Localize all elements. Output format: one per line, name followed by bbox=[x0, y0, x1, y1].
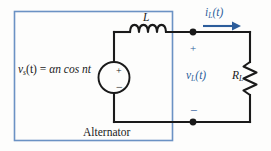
load-resistor-symbol: R bbox=[232, 69, 239, 81]
current-label: iL(t) bbox=[205, 7, 223, 20]
load-resistor-subscript: L bbox=[239, 74, 243, 83]
node-top-junction-dot bbox=[190, 29, 197, 36]
source-expression-rhs: αn cos nt bbox=[49, 63, 91, 75]
inductor-label: L bbox=[143, 12, 149, 24]
source-expression-label: vs(t) = αn cos nt bbox=[18, 64, 91, 77]
current-direction-arrow bbox=[203, 22, 241, 31]
source-plus-terminal: + bbox=[116, 66, 122, 76]
source-expression-mid: (t) = bbox=[26, 63, 49, 75]
source-minus-terminal: − bbox=[116, 81, 123, 93]
current-label-suffix: (t) bbox=[212, 6, 223, 18]
resistor-zigzag bbox=[244, 62, 257, 95]
load-voltage-suffix: (t) bbox=[195, 69, 206, 81]
node-bottom-junction-dot bbox=[190, 119, 197, 126]
load-voltage-minus-terminal: − bbox=[190, 104, 197, 117]
inductor-coils bbox=[130, 25, 166, 32]
circuit-diagram-figure: vs(t) = αn cos nt L iL(t) vL(t) RL Alter… bbox=[0, 0, 271, 151]
load-voltage-label: vL(t) bbox=[186, 70, 206, 83]
load-resistor-label: RL bbox=[232, 70, 243, 83]
alternator-enclosure-label: Alternator bbox=[83, 127, 130, 139]
load-voltage-plus-terminal: + bbox=[190, 43, 196, 54]
voltage-source-symbol bbox=[99, 62, 130, 93]
